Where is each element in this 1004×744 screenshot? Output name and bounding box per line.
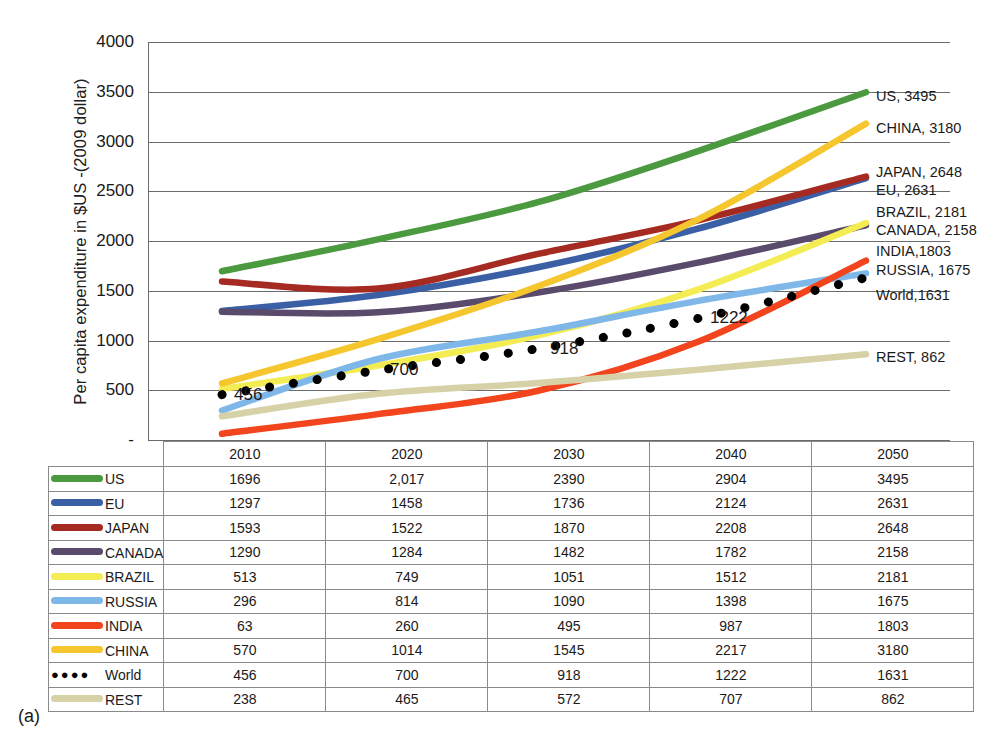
legend-label-rest: REST	[105, 692, 142, 708]
legend-swatch-icon-eu	[51, 499, 103, 506]
table-cell-world-2040: 1222	[650, 663, 812, 688]
table-cell-rest-2040: 707	[650, 687, 812, 712]
end-label-eu: EU, 2631	[876, 182, 936, 198]
series-lines	[148, 42, 950, 440]
table-cell-rest-2020: 465	[326, 687, 488, 712]
series-line-rest	[222, 354, 866, 416]
table-cell-eu-2010: 1297	[164, 491, 326, 516]
table-cell-world-2010: 456	[164, 663, 326, 688]
y-tick-label-2500: 2500	[44, 181, 134, 201]
table-row: CANADA12901284148217822158	[49, 540, 974, 565]
end-label-brazil: BRAZIL, 2181	[876, 204, 967, 220]
legend-swatch-icon-russia	[51, 597, 103, 604]
table-row: JAPAN15931522187022082648	[49, 516, 974, 541]
table-legend-cell-rest: REST	[49, 687, 164, 712]
table-cell-china-2020: 1014	[326, 638, 488, 663]
end-label-us: US, 3495	[876, 88, 936, 104]
end-label-china: CHINA, 3180	[876, 120, 961, 136]
table-legend-cell-world: ●●●●World	[49, 663, 164, 688]
table-cell-china-2050: 3180	[812, 638, 974, 663]
table-cell-us-2040: 2904	[650, 467, 812, 492]
table-col-header-2040: 2040	[650, 442, 812, 467]
table-cell-rest-2010: 238	[164, 687, 326, 712]
table-cell-rest-2050: 862	[812, 687, 974, 712]
table-cell-russia-2010: 296	[164, 589, 326, 614]
table-legend-cell-eu: EU	[49, 491, 164, 516]
table-cell-japan-2020: 1522	[326, 516, 488, 541]
table-legend-cell-canada: CANADA	[49, 540, 164, 565]
y-tick-label-1000: 1000	[44, 331, 134, 351]
table-cell-eu-2030: 1736	[488, 491, 650, 516]
legend-label-brazil: BRAZIL	[105, 569, 154, 585]
legend-label-eu: EU	[105, 496, 124, 512]
legend-label-china: CHINA	[105, 643, 149, 659]
table-cell-brazil-2020: 749	[326, 565, 488, 590]
table-cell-world-2030: 918	[488, 663, 650, 688]
table-row: US16962,017239029043495	[49, 467, 974, 492]
table-cell-brazil-2030: 1051	[488, 565, 650, 590]
table-cell-russia-2040: 1398	[650, 589, 812, 614]
legend-swatch-icon-rest	[51, 695, 103, 702]
table-col-header-2020: 2020	[326, 442, 488, 467]
table-cell-russia-2020: 814	[326, 589, 488, 614]
table-cell-japan-2050: 2648	[812, 516, 974, 541]
point-label-1222: 1222	[710, 308, 748, 328]
figure-caption: (a)	[18, 706, 40, 727]
table-cell-eu-2020: 1458	[326, 491, 488, 516]
legend-label-us: US	[105, 471, 124, 487]
data-table: 20102020203020402050US16962,017239029043…	[48, 441, 974, 712]
legend-swatch-icon-us	[51, 475, 103, 482]
legend-swatch-icon-brazil	[51, 573, 103, 580]
table-cell-china-2010: 570	[164, 638, 326, 663]
table-legend-cell-japan: JAPAN	[49, 516, 164, 541]
table-col-header-2010: 2010	[164, 442, 326, 467]
table-cell-india-2050: 1803	[812, 614, 974, 639]
legend-label-japan: JAPAN	[105, 520, 149, 536]
table-corner-cell	[49, 442, 164, 467]
legend-swatch-icon-china	[51, 646, 103, 653]
end-label-canada: CANADA, 2158	[876, 222, 977, 238]
table-legend-cell-russia: RUSSIA	[49, 589, 164, 614]
table-row: CHINA5701014154522173180	[49, 638, 974, 663]
table-row: RUSSIA296814109013981675	[49, 589, 974, 614]
end-label-japan: JAPAN, 2648	[876, 164, 962, 180]
table-cell-china-2030: 1545	[488, 638, 650, 663]
table-cell-brazil-2050: 2181	[812, 565, 974, 590]
table-cell-us-2020: 2,017	[326, 467, 488, 492]
table-col-header-2050: 2050	[812, 442, 974, 467]
figure-a: Per capita expenditure in $US -(2009 dol…	[0, 0, 1004, 744]
y-tick-label-4000: 4000	[44, 32, 134, 52]
table-cell-canada-2010: 1290	[164, 540, 326, 565]
table-cell-brazil-2010: 513	[164, 565, 326, 590]
end-label-india: INDIA,1803	[876, 243, 951, 259]
table-cell-us-2010: 1696	[164, 467, 326, 492]
table-legend-cell-india: INDIA	[49, 614, 164, 639]
table-cell-canada-2030: 1482	[488, 540, 650, 565]
table-row: ●●●●World45670091812221631	[49, 663, 974, 688]
y-tick-label-3000: 3000	[44, 132, 134, 152]
table-cell-canada-2040: 1782	[650, 540, 812, 565]
table-row: BRAZIL513749105115122181	[49, 565, 974, 590]
table-cell-us-2050: 3495	[812, 467, 974, 492]
y-tick-label-3500: 3500	[44, 82, 134, 102]
table-cell-japan-2010: 1593	[164, 516, 326, 541]
table-cell-canada-2050: 2158	[812, 540, 974, 565]
end-label-rest: REST, 862	[876, 349, 945, 365]
legend-swatch-icon-india	[51, 622, 103, 629]
end-label-world: World,1631	[876, 287, 950, 303]
table-row: INDIA632604959871803	[49, 614, 974, 639]
table-cell-brazil-2040: 1512	[650, 565, 812, 590]
legend-label-world: World	[105, 667, 141, 683]
legend-label-india: INDIA	[105, 618, 142, 634]
table-cell-india-2020: 260	[326, 614, 488, 639]
point-label-918: 918	[550, 339, 578, 359]
table-row: EU12971458173621242631	[49, 491, 974, 516]
legend-swatch-icon-japan	[51, 524, 103, 531]
table-legend-cell-brazil: BRAZIL	[49, 565, 164, 590]
legend-dots-icon-world: ●●●●	[51, 670, 103, 680]
point-label-700: 700	[390, 360, 418, 380]
series-line-japan	[222, 177, 866, 290]
table-cell-world-2050: 1631	[812, 663, 974, 688]
table-cell-eu-2050: 2631	[812, 491, 974, 516]
table-cell-world-2020: 700	[326, 663, 488, 688]
